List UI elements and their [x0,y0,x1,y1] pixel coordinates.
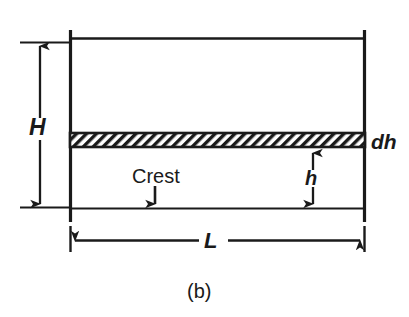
figure-caption: (b) [187,281,211,301]
dimension-label-h: h [305,168,317,188]
weir-diagram-canvas [0,0,409,317]
dimension-L [71,226,365,252]
annotation-label-crest: Crest [132,166,180,186]
weir-diagram-figure: H dh h L Crest (b) [0,0,409,317]
hatched-crest-band [70,133,365,147]
dimension-label-L: L [204,230,217,252]
dimension-label-dh: dh [371,131,397,152]
dimension-label-H: H [29,116,46,139]
channel-walls [71,30,365,222]
crest-band-rect [70,133,365,147]
